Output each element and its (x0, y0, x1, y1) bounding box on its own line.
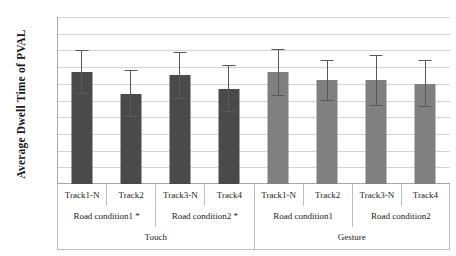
error-bar-line (81, 50, 82, 93)
bar-slot (254, 17, 303, 184)
error-bar-cap-bottom (222, 111, 235, 112)
modality-label: Touch (57, 227, 254, 250)
error-bar (370, 55, 383, 105)
error-bar-line (278, 49, 279, 96)
track-label: Track3-N (352, 184, 401, 206)
road-condition-label: Road condition1 (254, 206, 352, 227)
axis-band-tracks: Track1-NTrack2Track3-NTrack4Track1-NTrac… (57, 184, 450, 206)
y-axis-title: Average Dwell Time of PVAL (11, 9, 31, 199)
error-bar-cap-top (124, 70, 137, 71)
road-condition-label: Road condition1 * (57, 206, 155, 227)
bar-series (57, 17, 450, 184)
road-condition-label: Road condition2 * (155, 206, 253, 227)
error-bar-cap-bottom (272, 95, 285, 96)
error-bar-line (179, 52, 180, 99)
bar-slot (352, 17, 401, 184)
error-bar (124, 70, 137, 117)
category-axis: Track1-NTrack2Track3-NTrack4Track1-NTrac… (57, 184, 450, 250)
error-bar-line (376, 55, 377, 105)
error-bar-cap-top (222, 65, 235, 66)
error-bar-cap-top (321, 60, 334, 61)
axis-band-modalities: TouchGesture (57, 227, 450, 250)
error-bar (419, 60, 432, 107)
bar-slot (57, 17, 106, 184)
error-bar (173, 52, 186, 99)
track-label: Track1-N (254, 184, 303, 206)
error-bar (272, 49, 285, 96)
road-condition-label: Road condition2 (352, 206, 450, 227)
bar-slot (155, 17, 204, 184)
track-label: Track3-N (155, 184, 204, 206)
error-bar-cap-top (272, 49, 285, 50)
error-bar-cap-top (370, 55, 383, 56)
error-bar-line (327, 60, 328, 100)
bar-slot (401, 17, 450, 184)
error-bar-cap-bottom (370, 105, 383, 106)
error-bar-line (130, 70, 131, 117)
error-bar (222, 65, 235, 112)
track-label: Track2 (303, 184, 352, 206)
error-bar-cap-bottom (124, 116, 137, 117)
error-bar-cap-bottom (419, 106, 432, 107)
error-bar (75, 50, 88, 93)
axis-band-road-conditions: Road condition1 *Road condition2 *Road c… (57, 206, 450, 227)
error-bar-cap-bottom (173, 98, 186, 99)
bar-slot (106, 17, 155, 184)
error-bar (321, 60, 334, 100)
error-bar-cap-top (173, 52, 186, 53)
chart-figure: Average Dwell Time of PVAL 100%90%80%70%… (0, 0, 456, 256)
plot-area (57, 17, 450, 184)
track-label: Track2 (106, 184, 155, 206)
track-label: Track1-N (57, 184, 106, 206)
error-bar-line (228, 65, 229, 112)
modality-label: Gesture (254, 227, 451, 250)
bar-slot (303, 17, 352, 184)
track-label: Track4 (204, 184, 253, 206)
track-label: Track4 (401, 184, 450, 206)
error-bar-cap-bottom (75, 93, 88, 94)
error-bar-line (425, 60, 426, 107)
error-bar-cap-top (75, 50, 88, 51)
error-bar-cap-bottom (321, 100, 334, 101)
error-bar-cap-top (419, 60, 432, 61)
bar-slot (204, 17, 253, 184)
